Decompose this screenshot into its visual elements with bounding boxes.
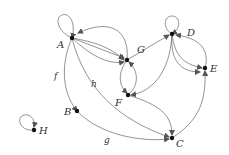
node-label-g: G: [137, 45, 145, 55]
edge-label-g: g: [104, 136, 110, 145]
edge-d-d: [165, 16, 179, 34]
node-label-b: B: [64, 107, 71, 117]
node-label-e: E: [210, 64, 217, 74]
edge-label-f: f: [54, 72, 57, 81]
edge-g-f: [120, 60, 127, 93]
graph-canvas: [0, 0, 229, 155]
edge-h-h: [20, 115, 35, 130]
edge-f-g: [128, 62, 136, 95]
edge-e-d: [176, 35, 206, 68]
edge-label-h: h: [91, 80, 97, 89]
edge-a-a: [58, 15, 73, 38]
edge-c-e: [172, 71, 205, 138]
node-c: [170, 136, 174, 140]
edge-a-g-1: [72, 38, 124, 58]
node-h: [32, 128, 36, 132]
edge-g-d: [127, 35, 169, 60]
node-label-h: H: [39, 126, 48, 136]
node-a: [70, 36, 74, 40]
node-label-c: C: [176, 139, 184, 149]
node-e: [203, 66, 207, 70]
node-label-a: A: [57, 40, 64, 50]
edge-d-e-1: [172, 34, 202, 68]
edge-b-c: [77, 111, 169, 140]
node-f: [126, 93, 130, 97]
node-b: [75, 109, 79, 113]
node-d: [170, 32, 174, 36]
edge-a-c: [72, 38, 169, 137]
edge-a-g-3: [72, 38, 124, 63]
node-label-d: D: [187, 28, 195, 38]
node-g: [125, 58, 129, 62]
node-label-f: F: [115, 98, 122, 108]
